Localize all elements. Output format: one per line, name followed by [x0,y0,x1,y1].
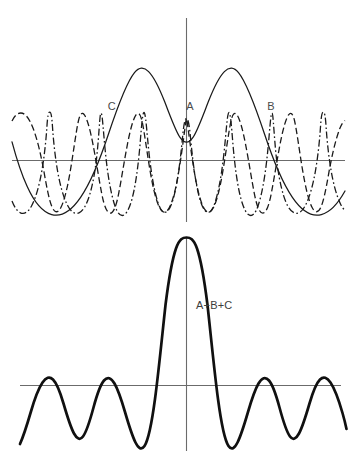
wave-b-curve [12,113,345,213]
panel-component-waves: C A B [12,18,345,222]
wave-label-c: C [108,100,116,112]
panel-summed-wave: A+B+C [20,238,347,452]
wave-label-b: B [267,100,275,112]
sum-curve [20,238,347,449]
wave-a-curve [12,68,345,215]
wave-label-a: A [186,100,194,112]
sum-wave-label: A+B+C [196,299,232,311]
wave-superposition-figure: C A B A+B+C [0,0,354,461]
figure-canvas: C A B A+B+C [0,0,354,461]
wave-c-curve [12,112,345,215]
